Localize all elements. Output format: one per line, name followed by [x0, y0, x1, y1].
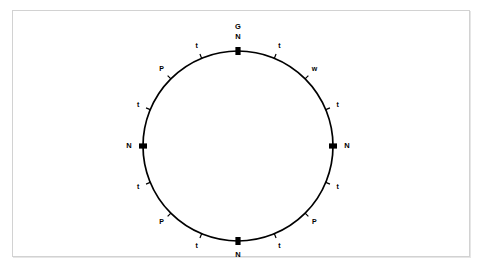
circle-ring: [143, 51, 333, 241]
minor-tick-mark: [305, 213, 309, 217]
minor-tick-label: t: [278, 42, 281, 49]
minor-tick-label: P: [312, 218, 317, 225]
major-tick-label: N: [235, 32, 240, 41]
minor-tick-label: P: [159, 218, 164, 225]
minor-tick-mark: [305, 76, 309, 80]
origin-marker-label: G: [235, 22, 241, 31]
major-tick-label: N: [344, 141, 349, 150]
minor-tick-label: t: [337, 183, 340, 190]
tick-label-group: NtwtNtPtNtPtNtPt: [126, 32, 349, 259]
major-tick-label: N: [126, 141, 131, 150]
minor-tick-label: t: [137, 101, 140, 108]
circular-map-canvas: NtwtNtPtNtPtNtPt G: [0, 0, 486, 270]
minor-tick-mark: [168, 76, 172, 80]
minor-tick-label: P: [159, 65, 164, 72]
minor-tick-label: t: [278, 242, 281, 249]
minor-tick-label: t: [137, 183, 140, 190]
minor-tick-label: w: [311, 65, 318, 72]
tick-mark-group: [139, 47, 337, 245]
minor-tick-label: t: [337, 101, 340, 108]
minor-tick-label: t: [195, 42, 198, 49]
origin-label-group: G: [235, 22, 241, 31]
figure-root: NtwtNtPtNtPtNtPt G: [0, 0, 486, 270]
circle-outline: [143, 51, 333, 241]
major-tick-label: N: [235, 250, 240, 259]
minor-tick-mark: [168, 213, 172, 217]
minor-tick-label: t: [195, 242, 198, 249]
